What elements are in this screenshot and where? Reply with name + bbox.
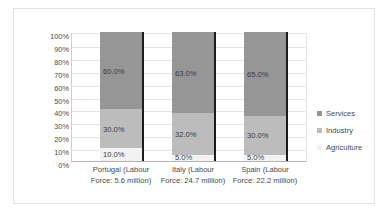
legend-item-label: Agriculture — [326, 143, 362, 152]
legend-item-agriculture[interactable]: Agriculture — [317, 139, 387, 156]
y-axis-tick-label: 60% — [27, 85, 69, 93]
y-axis-tick-label: 100% — [27, 33, 69, 41]
legend-item-services[interactable]: Services — [317, 105, 387, 122]
bar-column[interactable]: 10.0%30.0%60.0% — [100, 32, 144, 161]
y-axis-tick-label: 30% — [27, 123, 69, 131]
chart-frame: 100%90%80%70%60%50%40%30%20%10%0% 10.0%3… — [13, 8, 375, 204]
bar-segment-services[interactable]: 65.0% — [244, 32, 286, 116]
legend-swatch-icon — [317, 145, 322, 150]
category-label-line: Spain (Labour — [219, 165, 311, 176]
y-axis-tick-label: 0% — [27, 162, 69, 170]
x-axis-category-label: Spain (LabourForce: 22.2 million) — [219, 165, 311, 186]
y-axis-tick-label: 80% — [27, 59, 69, 67]
y-axis-tick-label: 10% — [27, 149, 69, 157]
bar-segment-agriculture[interactable]: 10.0% — [100, 148, 142, 161]
legend-item-label: Industry — [326, 126, 353, 135]
bar-segment-value-label: 30.0% — [103, 124, 125, 133]
legend-swatch-icon — [317, 128, 322, 133]
bar-segment-industry[interactable]: 30.0% — [244, 116, 286, 155]
chart-legend: ServicesIndustryAgriculture — [317, 105, 387, 156]
bar-segment-industry[interactable]: 32.0% — [172, 113, 214, 154]
y-axis-tick-label: 20% — [27, 136, 69, 144]
y-axis-tick-label: 90% — [27, 46, 69, 54]
legend-swatch-icon — [317, 111, 322, 116]
bar-segment-agriculture[interactable]: 5.0% — [172, 155, 214, 161]
legend-item-label: Services — [326, 109, 355, 118]
plot-area: 10.0%30.0%60.0%5.0%32.0%63.0%5.0%30.0%65… — [71, 33, 307, 162]
bar-segment-value-label: 30.0% — [247, 131, 269, 140]
y-axis-tick-label: 70% — [27, 72, 69, 80]
bar-column[interactable]: 5.0%30.0%65.0% — [244, 32, 288, 161]
bar-segment-value-label: 32.0% — [175, 129, 197, 138]
bar-segment-industry[interactable]: 30.0% — [100, 109, 142, 148]
bar-column[interactable]: 5.0%32.0%63.0% — [172, 32, 216, 161]
y-axis-tick-label: 50% — [27, 98, 69, 106]
bar-segment-services[interactable]: 60.0% — [100, 32, 142, 109]
bar-segment-agriculture[interactable]: 5.0% — [244, 155, 286, 161]
bar-segment-value-label: 60.0% — [103, 66, 125, 75]
y-axis: 100%90%80%70%60%50%40%30%20%10%0% — [27, 27, 69, 168]
bar-segment-value-label: 10.0% — [103, 149, 125, 158]
y-axis-tick-label: 40% — [27, 110, 69, 118]
bar-segment-value-label: 63.0% — [175, 68, 197, 77]
category-label-line: Force: 22.2 million) — [219, 176, 311, 187]
bar-segment-services[interactable]: 63.0% — [172, 32, 214, 113]
legend-item-industry[interactable]: Industry — [317, 122, 387, 139]
bar-segment-value-label: 65.0% — [247, 69, 269, 78]
